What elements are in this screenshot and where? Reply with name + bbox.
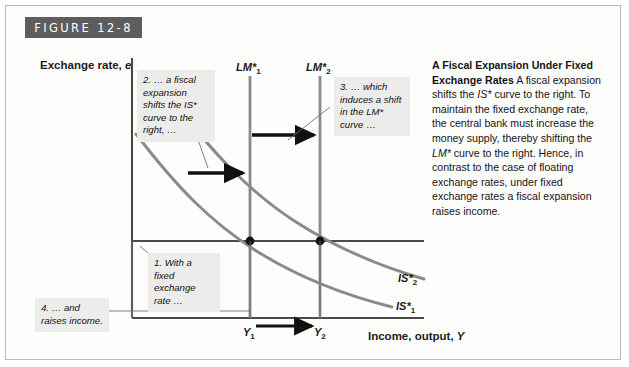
caption-em-1: IS* xyxy=(477,88,491,100)
is1-curve-label: IS*1 xyxy=(396,300,415,315)
is2-label-sub: 2 xyxy=(413,278,417,287)
lm1-label-text: LM xyxy=(236,61,252,73)
x-tick-2-sub: 2 xyxy=(321,332,325,341)
figure-number-banner: FIGURE 12-8 xyxy=(25,17,142,38)
y-axis-title: Exchange rate, e xyxy=(40,59,131,71)
lm2-curve-label: LM*2 xyxy=(306,61,331,76)
y-axis-title-symbol: e xyxy=(125,59,131,71)
callout-4: 4. … and raises income. xyxy=(35,298,109,332)
lm1-label-sub: 1 xyxy=(256,67,260,76)
callout-2: 2. … a fiscal expansion shifts the IS* c… xyxy=(137,70,215,142)
is1-label-text: IS xyxy=(396,300,406,312)
x-axis-title-text: Income, output, xyxy=(368,330,457,342)
is2-curve-label: IS*2 xyxy=(398,272,417,287)
y-axis-title-text: Exchange rate, xyxy=(40,59,125,71)
lm2-label-text: LM xyxy=(306,61,322,73)
x-axis-title: Income, output, Y xyxy=(368,330,464,342)
is2-label-text: IS xyxy=(398,272,408,284)
figure-caption: A Fiscal Expansion Under Fixed Exchange … xyxy=(432,58,604,219)
lm2-label-sub: 2 xyxy=(326,67,330,76)
is1-label-sub: 1 xyxy=(411,306,415,315)
caption-em-2: LM* xyxy=(432,147,451,159)
figure-number-label: FIGURE 12-8 xyxy=(34,21,133,35)
x-tick-label-y2: Y2 xyxy=(314,326,326,341)
callout-3: 3. … which induces a shift in the LM* cu… xyxy=(334,77,410,136)
x-axis-title-symbol: Y xyxy=(457,330,465,342)
caption-body-3: curve to the right. Hence, in contrast t… xyxy=(432,147,592,217)
callout-1: 1. With a fixed exchange rate … xyxy=(148,253,220,312)
figure-page: FIGURE 12-8 xyxy=(0,0,629,367)
x-tick-1-sub: 1 xyxy=(250,332,254,341)
lm1-curve-label: LM*1 xyxy=(236,61,261,76)
x-tick-label-y1: Y1 xyxy=(243,326,255,341)
